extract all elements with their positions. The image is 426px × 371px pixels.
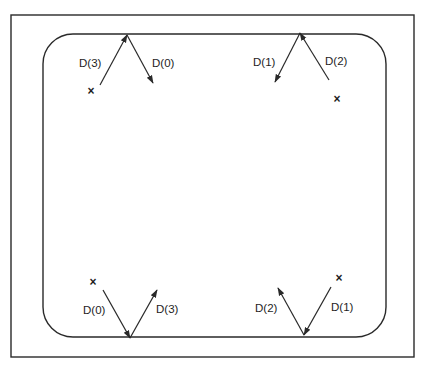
point-marker: × bbox=[87, 84, 94, 98]
direction-label: D(0) bbox=[152, 57, 175, 69]
direction-label: D(1) bbox=[331, 301, 354, 313]
direction-arrow-icon bbox=[304, 287, 331, 335]
direction-label: D(1) bbox=[253, 56, 276, 68]
rounded-region-boundary bbox=[43, 34, 386, 337]
direction-label: D(3) bbox=[156, 303, 179, 315]
group-bottom-left: ×D(0)D(3) bbox=[83, 275, 179, 338]
group-bottom-right: ×D(2)D(1) bbox=[255, 271, 354, 335]
direction-label: D(2) bbox=[325, 55, 348, 67]
direction-label: D(2) bbox=[255, 302, 278, 314]
diagram-canvas: ×D(3)D(0)×D(1)D(2)×D(0)D(3)×D(2)D(1) bbox=[0, 0, 426, 371]
group-top-right: ×D(1)D(2) bbox=[253, 33, 348, 106]
direction-arrow-icon bbox=[127, 35, 153, 83]
direction-label: D(0) bbox=[83, 304, 106, 316]
outer-frame bbox=[11, 15, 414, 357]
direction-arrow-icon bbox=[275, 33, 300, 82]
direction-arrow-icon bbox=[103, 290, 130, 338]
point-marker: × bbox=[333, 92, 340, 106]
direction-label: D(3) bbox=[79, 57, 102, 69]
direction-arrow-icon bbox=[130, 290, 157, 338]
point-marker: × bbox=[335, 271, 342, 285]
direction-arrow-icon bbox=[278, 288, 304, 335]
group-top-left: ×D(3)D(0) bbox=[79, 35, 175, 98]
reflection-groups: ×D(3)D(0)×D(1)D(2)×D(0)D(3)×D(2)D(1) bbox=[79, 33, 354, 338]
direction-arrow-icon bbox=[100, 35, 127, 85]
point-marker: × bbox=[89, 275, 96, 289]
